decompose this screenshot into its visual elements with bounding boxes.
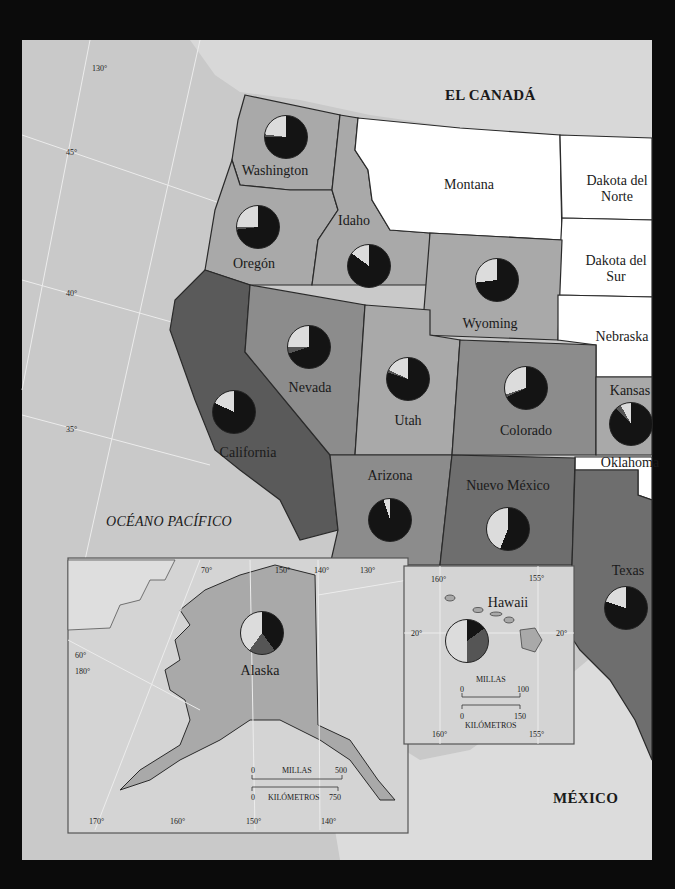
pie-chart-wyoming	[475, 258, 519, 302]
scale-miles-zero: 0	[251, 766, 255, 775]
state-label-dakota_sur: Dakota del Sur	[585, 253, 646, 285]
state-label-kansas: Kansas	[610, 383, 650, 399]
label-canada: EL CANADÁ	[445, 87, 536, 104]
graticule-label: 140°	[314, 566, 329, 575]
pie-chart-utah	[386, 357, 430, 401]
scale-miles-zero: 0	[460, 685, 464, 694]
graticule-label: 160°	[431, 575, 446, 584]
graticule-label: 170°	[89, 817, 104, 826]
state-label-alaska: Alaska	[241, 663, 280, 679]
pie-chart-hawaii	[445, 619, 489, 663]
graticule-label: 180°	[75, 667, 90, 676]
graticule-label: 130°	[360, 566, 375, 575]
pie-chart-alaska	[240, 611, 284, 655]
graticule-label: 70°	[201, 566, 212, 575]
pie-chart-kansas	[609, 402, 653, 446]
state-label-oklahoma: Oklahoma	[601, 455, 659, 471]
scale-km-label: KILÓMETROS	[465, 721, 517, 730]
map-canvas	[0, 0, 675, 889]
graticule-label: 160°	[170, 817, 185, 826]
scale-km-zero: 0	[460, 712, 464, 721]
scale-miles-max: 500	[335, 766, 347, 775]
state-label-dakota_norte: Dakota del Norte	[586, 173, 647, 205]
label-ocean: OCÉANO PACÍFICO	[106, 514, 232, 530]
pie-chart-california	[212, 390, 256, 434]
state-label-california: California	[220, 445, 277, 461]
pie-chart-washington	[264, 115, 308, 159]
graticule-label: 60°	[75, 651, 86, 660]
pie-chart-nuevo_mexico	[486, 507, 530, 551]
state-label-colorado: Colorado	[500, 423, 552, 439]
state-label-nuevo_mexico: Nuevo México	[466, 478, 550, 494]
state-label-idaho: Idaho	[338, 213, 370, 229]
state-label-nevada: Nevada	[289, 380, 332, 396]
scale-km-zero: 0	[251, 793, 255, 802]
state-label-hawaii: Hawaii	[488, 595, 528, 611]
graticule-label: 155°	[529, 574, 544, 583]
graticule-label: 140°	[321, 817, 336, 826]
state-label-montana: Montana	[444, 177, 494, 193]
pie-chart-texas	[604, 586, 648, 630]
state-label-nebraska: Nebraska	[596, 329, 649, 345]
graticule-label: 20°	[556, 629, 567, 638]
scale-miles-label: MILLAS	[476, 675, 506, 684]
graticule-label: 160°	[432, 730, 447, 739]
graticule-label: 130°	[92, 64, 107, 73]
scale-miles-max: 100	[517, 685, 529, 694]
scale-miles-label: MILLAS	[282, 766, 312, 775]
graticule-label: 45°	[66, 148, 77, 157]
scale-km-max: 150	[514, 712, 526, 721]
state-label-oregon: Oregón	[233, 256, 275, 272]
pie-chart-arizona	[368, 498, 412, 542]
state-label-arizona: Arizona	[367, 468, 412, 484]
state-label-utah: Utah	[394, 413, 421, 429]
state-label-washington: Washington	[242, 163, 309, 179]
alaska-inset	[68, 558, 408, 833]
pie-chart-nevada	[287, 325, 331, 369]
graticule-label: 155°	[529, 730, 544, 739]
state-label-texas: Texas	[612, 563, 644, 579]
graticule-label: 150°	[246, 817, 261, 826]
hawaii-inset	[404, 566, 574, 744]
pie-chart-oregon	[236, 205, 280, 249]
pie-chart-idaho	[347, 244, 391, 288]
state-label-wyoming: Wyoming	[462, 316, 517, 332]
pie-chart-colorado	[504, 366, 548, 410]
graticule-label: 20°	[411, 629, 422, 638]
scale-km-label: KILÓMETROS	[268, 793, 320, 802]
graticule-label: 40°	[66, 289, 77, 298]
label-mexico: MÉXICO	[553, 790, 618, 807]
scale-km-max: 750	[329, 793, 341, 802]
graticule-label: 150°	[275, 566, 290, 575]
graticule-label: 35°	[66, 425, 77, 434]
